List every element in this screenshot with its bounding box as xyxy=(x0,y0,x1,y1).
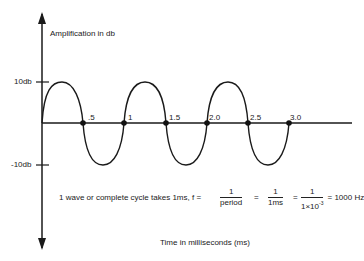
arrow-up-icon xyxy=(38,12,46,24)
x-tick-label: 1.5 xyxy=(169,113,180,122)
point-1 xyxy=(121,120,127,126)
x-tick-label: 2.5 xyxy=(250,113,261,122)
x-tick-label: 3.0 xyxy=(290,113,301,122)
y-axis-label: Amplification in db xyxy=(50,29,115,38)
x-axis-label: Time in milliseconds (ms) xyxy=(160,238,250,247)
fraction-1-over-1e-3: 1 1×10-3 xyxy=(301,187,323,212)
numerator: 1 xyxy=(220,187,242,198)
y-tick-label-minus-10db: -10db xyxy=(11,160,31,169)
denominator: period xyxy=(220,198,242,208)
x-tick-label: .5 xyxy=(88,113,95,122)
point-1.5 xyxy=(163,120,169,126)
x-tick-label: 1 xyxy=(128,113,132,122)
den-exponent: -3 xyxy=(319,200,323,206)
denominator: 1×10-3 xyxy=(301,198,323,212)
equals-sign: = xyxy=(254,193,259,202)
numerator: 1 xyxy=(301,187,323,198)
formula-prefix: 1 wave or complete cycle takes 1ms, f = xyxy=(59,193,201,202)
denominator: 1ms xyxy=(268,198,283,208)
equals-sign: = xyxy=(293,193,298,202)
fraction-1-over-period: 1 period xyxy=(220,187,242,208)
formula-result: = 1000 Hz xyxy=(327,193,364,202)
x-tick-label: 2.0 xyxy=(209,113,220,122)
point-0.5 xyxy=(80,120,86,126)
y-tick-label-10db: 10db xyxy=(14,77,32,86)
fraction-1-over-1ms: 1 1ms xyxy=(268,187,283,208)
den-base: 1×10 xyxy=(301,202,319,211)
numerator: 1 xyxy=(268,187,283,198)
arrow-down-icon xyxy=(38,238,46,250)
